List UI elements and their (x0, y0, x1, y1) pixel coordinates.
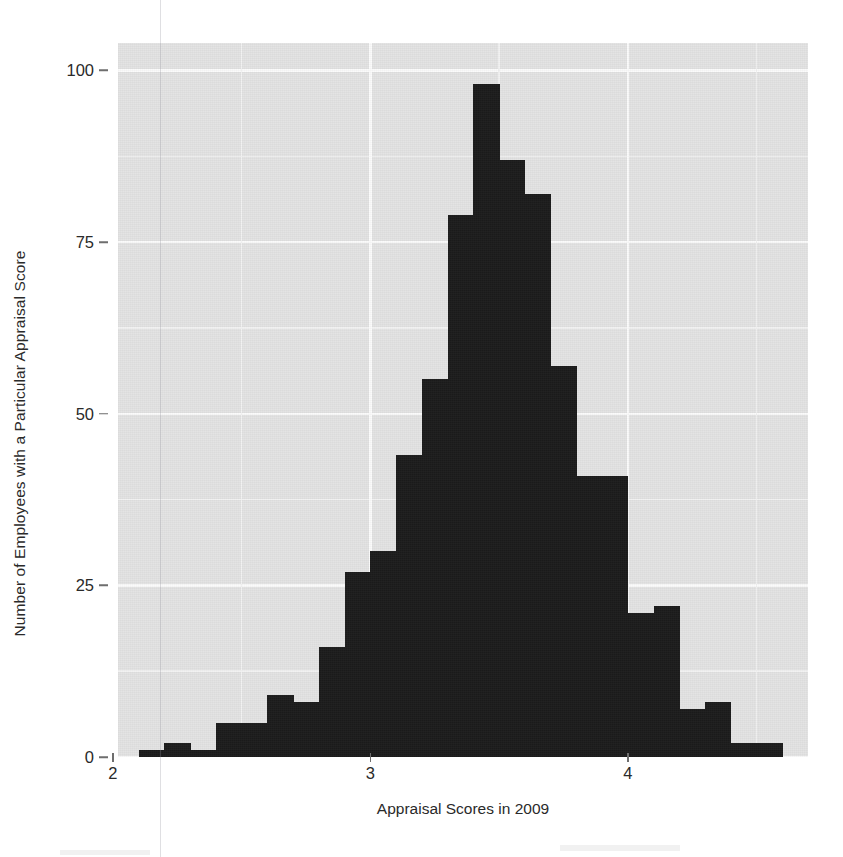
x-tick-mark (370, 753, 372, 762)
x-tick-mark (627, 753, 629, 762)
histogram-figure: Number of Employees with a Particular Ap… (0, 0, 843, 857)
x-axis-ticks: 234 (0, 0, 843, 857)
x-tick-label: 4 (598, 764, 658, 783)
x-tick-mark (112, 753, 114, 762)
scan-artifact-line (160, 0, 161, 857)
scan-smudge (560, 845, 680, 851)
x-tick-label: 3 (340, 764, 400, 783)
x-tick-label: 2 (83, 764, 143, 783)
x-axis-title-text: Appraisal Scores in 2009 (377, 800, 549, 817)
scan-smudge (60, 850, 150, 855)
x-axis-title: Appraisal Scores in 2009 (118, 800, 808, 818)
